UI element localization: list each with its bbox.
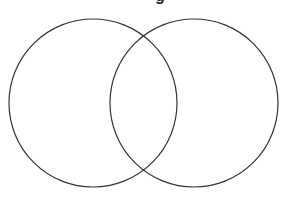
- left-set-circle: [9, 19, 177, 187]
- venn-diagram: [0, 0, 291, 201]
- right-set-circle: [110, 19, 278, 187]
